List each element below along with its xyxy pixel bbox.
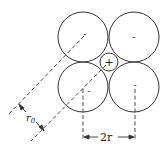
charge-top-left: - bbox=[83, 28, 86, 39]
charge-bottom-right: - bbox=[133, 79, 136, 90]
ionic-radius-diagram: r0 2r - - - - + bbox=[0, 0, 168, 149]
2r-label: 2r bbox=[100, 131, 113, 144]
r0-label: r0 bbox=[26, 112, 36, 125]
charge-bottom-left: - bbox=[87, 85, 90, 96]
charge-cation: + bbox=[104, 56, 113, 69]
2r-arrow-right-icon bbox=[129, 135, 134, 139]
2r-arrow-left-icon bbox=[84, 135, 89, 139]
charge-top-right: - bbox=[132, 31, 135, 42]
diagonal-line-anion bbox=[8, 36, 84, 115]
